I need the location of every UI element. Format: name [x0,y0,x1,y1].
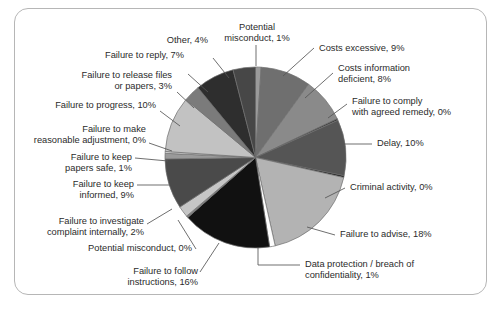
label-line: Failure to advise, 18% [340,229,432,240]
label-failure-progress: Failure to progress, 10% [24,100,156,111]
label-line: Criminal activity, 0% [350,182,433,193]
label-line: instructions, 16% [98,277,198,288]
label-line: complaint internally, 2% [20,227,144,238]
label-line: misconduct, 1% [202,33,312,44]
label-failure-reasonable-adj: Failure to make reasonable adjustment, 0… [18,124,146,147]
label-other: Other, 4% [110,35,208,46]
label-line: Other, 4% [110,35,208,46]
label-costs-excessive: Costs excessive, 9% [319,43,404,54]
label-line: Failure to comply [352,96,451,107]
label-line: with agreed remedy, 0% [352,107,451,118]
label-delay: Delay, 10% [377,138,424,149]
chart-screenshot: Potential misconduct, 1% Costs excessive… [0,0,501,310]
label-line: confidentiality, 1% [305,270,414,281]
pie-chart: Potential misconduct, 1% Costs excessive… [0,0,501,310]
label-line: informed, 9% [44,190,134,201]
label-line: Costs information [338,63,410,74]
label-failure-keep-informed: Failure to keep informed, 9% [44,179,134,202]
leader-data-protection [258,248,300,265]
label-data-protection: Data protection / breach of confidential… [305,259,414,282]
label-line: Failure to keep [44,152,132,163]
label-line: Costs excessive, 9% [319,43,404,54]
label-failure-release: Failure to release files or papers, 3% [40,70,172,93]
label-line: reasonable adjustment, 0% [18,135,146,146]
label-line: Data protection / breach of [305,259,414,270]
label-failure-reply: Failure to reply, 7% [60,50,184,61]
label-line: Failure to progress, 10% [24,100,156,111]
leader-failure-advise [307,227,335,235]
label-line: Delay, 10% [377,138,424,149]
leader-failure-keep-papers [135,158,168,161]
label-line: deficient, 8% [338,74,410,85]
label-failure-follow: Failure to follow instructions, 16% [98,266,198,289]
label-line: papers safe, 1% [44,163,132,174]
pie-slices [165,67,346,248]
label-criminal-activity: Criminal activity, 0% [350,182,433,193]
label-line: Failure to investigate [20,216,144,227]
label-failure-investigate: Failure to investigate complaint interna… [20,216,144,239]
label-potential-misconduct-top: Potential misconduct, 1% [202,22,312,45]
label-line: Potential [202,22,312,33]
label-failure-keep-papers: Failure to keep papers safe, 1% [44,152,132,175]
label-line: Failure to make [18,124,146,135]
label-line: Failure to release files [40,70,172,81]
label-line: Potential misconduct, 0% [30,243,192,254]
label-potential-misconduct-zero: Potential misconduct, 0% [30,243,192,254]
label-costs-info-deficient: Costs information deficient, 8% [338,63,410,86]
leader-failure-follow [200,243,219,272]
leader-failure-investigate [147,209,172,224]
label-line: Failure to keep [44,179,134,190]
label-line: Failure to reply, 7% [60,50,184,61]
label-failure-advise: Failure to advise, 18% [340,229,432,240]
label-line: Failure to follow [98,266,198,277]
label-line: or papers, 3% [40,81,172,92]
leader-costs-excessive [283,48,314,76]
label-failure-comply: Failure to comply with agreed remedy, 0% [352,96,451,119]
